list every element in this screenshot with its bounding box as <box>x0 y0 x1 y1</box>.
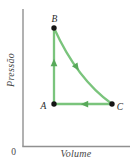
point-b-dot <box>51 25 56 30</box>
point-b-label: B <box>52 14 58 24</box>
point-c-label: C <box>117 102 124 112</box>
point-a-label: A <box>40 101 47 111</box>
y-axis-label: Pressão <box>5 53 16 88</box>
x-axis-label: Volume <box>60 148 91 159</box>
arrowhead-up-icon <box>51 59 58 66</box>
arrowhead-left-icon <box>81 101 88 108</box>
process-b-to-c <box>54 28 112 104</box>
point-a-dot <box>51 101 56 106</box>
origin-label: 0 <box>11 147 16 157</box>
pv-diagram-canvas: B A C Pressão Volume 0 <box>0 0 137 166</box>
point-c-dot <box>109 101 114 106</box>
pv-diagram-figure: B A C Pressão Volume 0 <box>0 0 137 166</box>
